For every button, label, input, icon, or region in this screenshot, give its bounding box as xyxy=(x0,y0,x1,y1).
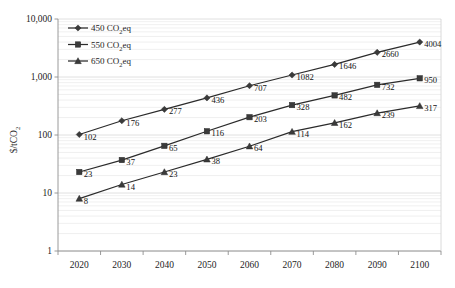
data-point-marker-square xyxy=(204,129,209,134)
data-point-label: 482 xyxy=(339,92,352,102)
carbon-price-chart: 10,0001,000100101 2020203020402050206020… xyxy=(0,0,455,288)
legend-group: 450 CO2eq550 CO2eq650 CO2eq xyxy=(68,23,131,68)
x-tick-label: 2050 xyxy=(197,260,216,270)
data-point-label: 239 xyxy=(382,110,395,120)
data-point-label: 23 xyxy=(84,169,93,179)
legend-label-tail: eq xyxy=(122,40,131,50)
data-point-marker-diamond xyxy=(119,118,125,124)
data-point-marker-square xyxy=(374,82,379,87)
data-point-marker-square xyxy=(289,102,294,107)
data-point-label: 707 xyxy=(254,83,268,93)
chart-canvas: 10,0001,000100101 2020203020402050206020… xyxy=(0,0,455,288)
data-point-marker-diamond xyxy=(417,39,423,45)
data-point-label: 328 xyxy=(297,102,310,112)
y-tick-label: 10,000 xyxy=(26,14,52,24)
data-point-label: 950 xyxy=(424,75,437,85)
data-point-marker-diamond xyxy=(374,49,380,55)
data-point-marker-diamond xyxy=(332,61,338,67)
data-point-marker-square xyxy=(75,42,80,47)
y-axis-title-group: $/tCO2 xyxy=(9,127,21,154)
data-point-label: 732 xyxy=(382,82,395,92)
data-point-label: 65 xyxy=(169,143,178,153)
y-axis-title-text: $/tCO2 xyxy=(9,127,21,154)
data-labels-group: 1021762774367071082164626604004233765116… xyxy=(84,39,442,206)
x-tick-label: 2090 xyxy=(368,260,387,270)
data-point-label: 317 xyxy=(424,103,438,113)
y-axis-title-subscript: 2 xyxy=(14,127,21,130)
data-point-marker-square xyxy=(77,169,82,174)
data-point-label: 14 xyxy=(126,182,135,192)
data-point-label: 38 xyxy=(211,156,220,166)
x-tick-label: 2100 xyxy=(410,260,429,270)
legend-item-1[interactable]: 450 CO2eq xyxy=(68,23,131,35)
x-tick-label: 2080 xyxy=(325,260,344,270)
data-point-label: 176 xyxy=(126,118,140,128)
legend-item-3[interactable]: 650 CO2eq xyxy=(68,56,131,68)
data-point-label: 2660 xyxy=(382,49,399,59)
legend-item-2[interactable]: 550 CO2eq xyxy=(68,40,131,52)
data-point-marker-square xyxy=(332,93,337,98)
x-tick-label: 2040 xyxy=(155,260,174,270)
data-point-label: 4004 xyxy=(424,39,442,49)
data-point-label: 116 xyxy=(211,128,224,138)
data-point-label: 1082 xyxy=(297,72,314,82)
data-point-marker-square xyxy=(119,157,124,162)
data-point-marker-triangle xyxy=(416,103,423,109)
x-tick-label: 2070 xyxy=(283,260,302,270)
data-point-marker-diamond xyxy=(75,25,81,31)
y-tick-label: 100 xyxy=(38,130,53,140)
data-point-marker-square xyxy=(162,143,167,148)
data-point-marker-diamond xyxy=(76,131,82,137)
legend-item-label: 450 CO2eq xyxy=(91,23,131,35)
legend-label-tail: eq xyxy=(122,56,131,66)
data-point-label: 102 xyxy=(84,132,97,142)
data-point-label: 37 xyxy=(126,157,135,167)
data-point-label: 23 xyxy=(169,169,178,179)
y-tick-label: 1,000 xyxy=(31,72,53,82)
data-point-label: 203 xyxy=(254,114,267,124)
data-point-label: 64 xyxy=(254,143,263,153)
data-point-marker-diamond xyxy=(246,83,252,89)
data-point-marker-square xyxy=(247,114,252,119)
legend-item-label: 550 CO2eq xyxy=(91,40,131,52)
legend-label-tail: eq xyxy=(122,23,131,33)
data-point-label: 436 xyxy=(211,95,225,105)
data-point-label: 8 xyxy=(84,196,88,206)
x-tick-label: 2020 xyxy=(70,260,89,270)
data-point-label: 277 xyxy=(169,106,183,116)
data-point-label: 162 xyxy=(339,120,352,130)
data-point-marker-square xyxy=(417,76,422,81)
y-tick-label: 10 xyxy=(43,188,53,198)
x-tick-label: 2060 xyxy=(240,260,259,270)
data-point-label: 1646 xyxy=(339,61,357,71)
y-axis-ticks-group: 10,0001,000100101 xyxy=(26,14,58,256)
x-axis-ticks-group: 202020302040205020602070208020902100 xyxy=(58,251,441,270)
y-tick-label: 1 xyxy=(47,246,52,256)
x-tick-label: 2030 xyxy=(112,260,131,270)
y-axis-title: $/tCO2 xyxy=(9,127,21,154)
data-point-label: 114 xyxy=(297,129,310,139)
legend-item-label: 650 CO2eq xyxy=(91,56,131,68)
